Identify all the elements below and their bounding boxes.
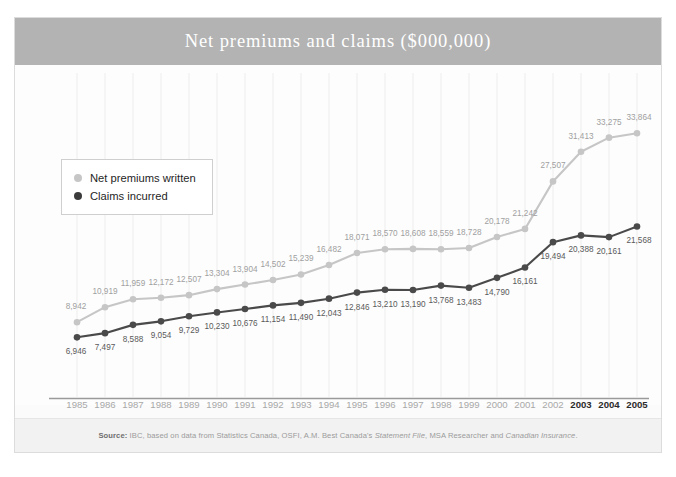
data-point: [466, 284, 473, 291]
data-point: [242, 306, 249, 313]
data-label: 19,494: [540, 252, 565, 261]
data-point: [606, 134, 613, 141]
source-mid: , MSA Researcher and: [425, 431, 506, 440]
data-point: [214, 309, 221, 316]
data-point: [158, 294, 165, 301]
data-label: 9,054: [151, 331, 172, 340]
data-point: [74, 319, 81, 326]
data-label: 18,570: [372, 229, 397, 238]
data-label: 20,388: [568, 245, 593, 254]
data-point: [186, 313, 193, 320]
data-point: [522, 226, 529, 233]
data-label: 13,904: [232, 265, 257, 274]
data-label: 18,608: [400, 229, 425, 238]
data-label: 10,676: [232, 319, 257, 328]
data-point: [214, 286, 221, 293]
data-label: 13,304: [204, 269, 229, 278]
data-label: 18,728: [456, 228, 481, 237]
data-label: 11,959: [121, 279, 146, 288]
data-label: 13,210: [372, 300, 397, 309]
data-point: [130, 322, 137, 329]
x-axis-tick-labels: 1985198619871988198919901991199219931994…: [15, 390, 661, 420]
chart-source-band: Source: IBC, based on data from Statisti…: [15, 418, 661, 452]
source-italic-statement-file: Statement File: [375, 431, 425, 440]
data-label: 8,588: [123, 335, 144, 344]
line-chart-svg: 8,94210,91911,95912,17212,50713,30413,90…: [15, 65, 661, 405]
data-point: [466, 245, 473, 252]
data-label: 14,502: [260, 260, 285, 269]
page-title: Net premiums and claims ($000,000): [185, 31, 492, 52]
data-label: 13,768: [428, 296, 453, 305]
legend-swatch-premiums-icon: [74, 174, 82, 182]
data-label: 20,178: [484, 217, 509, 226]
data-point: [102, 330, 109, 337]
data-label: 16,161: [512, 277, 537, 286]
data-point: [438, 246, 445, 253]
data-point: [522, 264, 529, 271]
data-label: 12,846: [344, 303, 369, 312]
data-point: [382, 246, 389, 253]
data-point: [326, 295, 333, 302]
data-label: 10,919: [92, 287, 117, 296]
data-label: 27,507: [540, 161, 565, 170]
source-body: IBC, based on data from Statistics Canad…: [127, 431, 374, 440]
data-point: [354, 250, 361, 257]
data-label: 13,483: [456, 298, 481, 307]
source-italic-canadian-insurance: Canadian Insurance: [506, 431, 576, 440]
data-point: [494, 275, 501, 282]
source-prefix: Source:: [98, 431, 127, 440]
data-point: [298, 271, 305, 278]
chart-legend: Net premiums written Claims incurred: [61, 159, 213, 215]
data-label: 11,490: [289, 313, 314, 322]
data-point: [74, 334, 81, 341]
data-label: 31,413: [568, 132, 593, 141]
data-point: [382, 287, 389, 294]
data-label: 18,071: [344, 233, 369, 242]
data-label: 12,043: [316, 309, 341, 318]
data-point: [298, 300, 305, 307]
data-label: 21,568: [626, 236, 651, 245]
data-label: 11,154: [261, 315, 286, 324]
data-label: 33,864: [626, 113, 651, 122]
data-point: [438, 282, 445, 289]
chart-title-band: Net premiums and claims ($000,000): [15, 18, 661, 65]
series-claims-incurred: 6,9467,4978,5889,0549,72910,23010,67611,…: [66, 223, 652, 356]
data-label: 6,946: [66, 347, 87, 356]
data-label: 18,559: [428, 229, 453, 238]
data-point: [410, 246, 417, 253]
data-point: [242, 281, 249, 288]
data-point: [494, 234, 501, 241]
data-label: 7,497: [95, 343, 116, 352]
data-label: 20,161: [596, 247, 621, 256]
data-point: [634, 130, 641, 137]
data-label: 15,239: [288, 254, 313, 263]
data-label: 9,729: [179, 326, 200, 335]
data-point: [410, 287, 417, 294]
data-point: [130, 296, 137, 303]
data-label: 10,230: [204, 322, 229, 331]
data-point: [578, 148, 585, 155]
legend-label-claims: Claims incurred: [90, 190, 168, 202]
data-point: [186, 292, 193, 299]
chart-figure: Net premiums and claims ($000,000) 8,942…: [14, 17, 662, 453]
plot-area: 8,94210,91911,95912,17212,50713,30413,90…: [15, 65, 661, 405]
legend-swatch-claims-icon: [74, 192, 82, 200]
x-tick-label-2005: 2005: [617, 399, 657, 410]
data-point: [354, 289, 361, 296]
data-point: [102, 304, 109, 311]
data-label: 21,242: [512, 209, 537, 218]
data-point: [270, 277, 277, 284]
legend-label-premiums: Net premiums written: [90, 172, 196, 184]
legend-item-claims-incurred: Claims incurred: [74, 187, 196, 205]
data-label: 13,190: [400, 300, 425, 309]
data-point: [270, 302, 277, 309]
data-point: [550, 178, 557, 185]
source-end: .: [575, 431, 577, 440]
data-point: [326, 262, 333, 269]
data-point: [634, 223, 641, 230]
data-point: [578, 232, 585, 239]
data-point: [550, 239, 557, 246]
data-label: 12,172: [148, 278, 173, 287]
data-label: 14,790: [484, 288, 509, 297]
data-point: [606, 234, 613, 241]
